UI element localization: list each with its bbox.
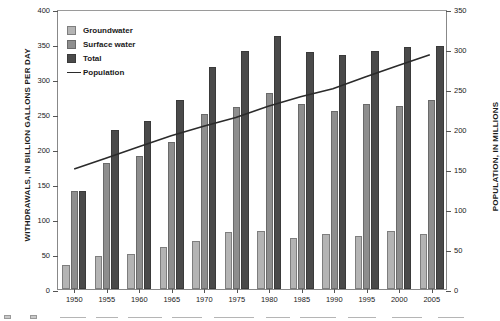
y-tick-right	[446, 131, 451, 132]
cropped-text-fragment	[438, 317, 464, 318]
x-tick-label: 1975	[228, 296, 245, 304]
x-tick-label: 1950	[66, 296, 83, 304]
x-tick-label: 2000	[391, 296, 408, 304]
y-tick-label-right: 150	[454, 167, 467, 175]
x-tick	[237, 289, 238, 293]
x-tick-label: 1990	[326, 296, 343, 304]
x-tick-label: 1985	[293, 296, 310, 304]
cropped-text-fragment	[392, 317, 422, 318]
legend-item: Groundwater	[67, 24, 135, 36]
x-tick	[367, 289, 368, 293]
cropped-text-fragment	[128, 317, 162, 318]
legend-line-marker	[67, 68, 81, 77]
legend-swatch-gw	[67, 26, 76, 35]
y-tick-label-left: 0	[46, 287, 50, 295]
chart-legend: GroundwaterSurface waterTotalPopulation	[67, 24, 135, 80]
legend-label: Groundwater	[83, 26, 133, 35]
cropped-legend-swatch	[4, 315, 11, 319]
x-tick-label: 2005	[423, 296, 440, 304]
x-tick	[107, 289, 108, 293]
plot-area: 050100150200250300350400 050100150200250…	[57, 10, 447, 290]
cropped-text-fragment	[348, 317, 376, 318]
y-tick-label-left: 100	[37, 217, 50, 225]
y-axis-right-title: POPULATION, IN MILLIONS	[491, 72, 500, 242]
x-tick	[204, 289, 205, 293]
x-tick-label: 1955	[98, 296, 115, 304]
y-tick-right	[446, 291, 451, 292]
x-tick-label: 1970	[196, 296, 213, 304]
y-tick-label-left: 300	[37, 77, 50, 85]
x-tick-label: 1980	[261, 296, 278, 304]
y-tick-label-right: 200	[454, 127, 467, 135]
cropped-text-fragment	[214, 317, 254, 318]
y-tick-right	[446, 251, 451, 252]
legend-item: Total	[67, 52, 135, 64]
y-tick-label-right: 250	[454, 87, 467, 95]
cropped-text-fragment	[172, 317, 202, 318]
cropped-text-fragment	[60, 317, 86, 318]
x-tick	[399, 289, 400, 293]
x-tick-label: 1995	[358, 296, 375, 304]
y-tick-label-left: 50	[42, 252, 50, 260]
legend-label: Total	[83, 54, 102, 63]
y-tick-right	[446, 11, 451, 12]
cropped-text-fragment	[96, 317, 118, 318]
y-tick-label-right: 50	[454, 247, 462, 255]
y-tick-label-right: 350	[454, 7, 467, 15]
x-tick	[139, 289, 140, 293]
x-tick	[432, 289, 433, 293]
cropped-text-fragment	[300, 317, 336, 318]
x-tick	[269, 289, 270, 293]
y-tick-label-right: 0	[454, 287, 458, 295]
x-tick	[302, 289, 303, 293]
x-tick-label: 1960	[131, 296, 148, 304]
x-tick	[172, 289, 173, 293]
y-tick-label-left: 200	[37, 147, 50, 155]
x-tick-label: 1965	[163, 296, 180, 304]
legend-label: Surface water	[83, 40, 135, 49]
y-tick-right	[446, 91, 451, 92]
y-tick-label-left: 350	[37, 42, 50, 50]
legend-swatch-tot	[67, 54, 76, 63]
y-tick-label-left: 250	[37, 112, 50, 120]
y-tick-right	[446, 211, 451, 212]
y-tick-label-right: 300	[454, 47, 467, 55]
y-axis-left-title: WITHDRAWALS, IN BILLION GALLONS PER DAY	[23, 72, 32, 242]
x-tick	[74, 289, 75, 293]
y-tick-right	[446, 51, 451, 52]
y-tick-left	[53, 291, 58, 292]
legend-swatch-sw	[67, 40, 76, 49]
legend-item: Population	[67, 66, 135, 78]
cropped-text-fragment	[266, 317, 290, 318]
cropped-legend-swatch	[30, 315, 37, 319]
legend-label: Population	[83, 68, 124, 77]
y-tick-label-right: 100	[454, 207, 467, 215]
y-tick-label-left: 400	[37, 7, 50, 15]
y-tick-right	[446, 171, 451, 172]
y-tick-label-left: 150	[37, 182, 50, 190]
x-tick	[334, 289, 335, 293]
legend-item: Surface water	[67, 38, 135, 50]
cropped-figure-strip	[0, 314, 497, 321]
